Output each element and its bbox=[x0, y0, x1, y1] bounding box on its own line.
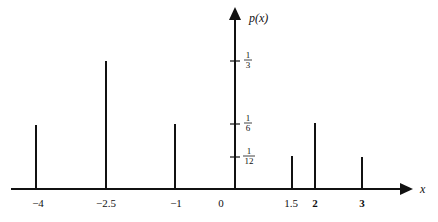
svg-text:3: 3 bbox=[246, 60, 251, 70]
y-tick-label-twelfth: 1 12 bbox=[243, 146, 255, 166]
svg-text:1: 1 bbox=[246, 113, 251, 123]
svg-text:12: 12 bbox=[245, 156, 254, 166]
y-tick-label-third: 1 3 bbox=[244, 50, 252, 70]
svg-text:6: 6 bbox=[246, 123, 251, 133]
x-axis-arrow-icon bbox=[400, 183, 413, 195]
x-tick-label-0: 0 bbox=[218, 197, 224, 209]
x-tick-label-neg4: −4 bbox=[32, 197, 44, 209]
y-axis-arrow-icon bbox=[229, 7, 241, 20]
svg-text:1: 1 bbox=[246, 50, 251, 60]
x-tick-label-1-5: 1.5 bbox=[284, 197, 298, 209]
y-axis-label: p(x) bbox=[248, 11, 268, 25]
x-tick-label-3: 3 bbox=[359, 197, 365, 209]
pmf-chart: x p(x) 1 3 1 6 1 12 −4 −2.5 −1 0 1.5 2 3 bbox=[0, 0, 438, 222]
y-tick-label-sixth: 1 6 bbox=[244, 113, 252, 133]
x-tick-label-neg2-5: −2.5 bbox=[96, 197, 116, 209]
x-axis-label: x bbox=[419, 182, 426, 196]
x-tick-label-2: 2 bbox=[312, 197, 318, 209]
x-tick-label-neg1: −1 bbox=[170, 197, 182, 209]
svg-text:1: 1 bbox=[247, 146, 252, 156]
